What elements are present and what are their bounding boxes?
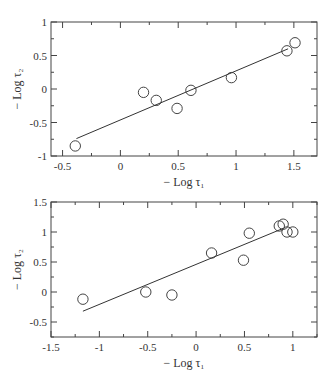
- x-tick-label: -1.5: [42, 341, 60, 353]
- data-point-circle-icon: [151, 95, 161, 105]
- data-point-circle-icon: [290, 38, 300, 48]
- y-tick-label: -0.5: [30, 316, 48, 328]
- x-tick-label: 1: [290, 341, 296, 353]
- plot-frame: [51, 22, 317, 156]
- x-tick-label: 0.5: [238, 341, 252, 353]
- x-axis-label: − Log τ₁: [163, 356, 204, 370]
- chart-bottom-plot: -1.5-1-0.500.51-0.500.511.5− Log τ₁− Log…: [0, 190, 334, 378]
- y-tick-label: -0.5: [30, 117, 48, 129]
- y-tick-label: 1: [42, 16, 48, 28]
- chart-top-plot: -0.500.511.5-1-0.500.51− Log τ₁− Log τ₂: [0, 0, 334, 190]
- data-point-circle-icon: [288, 227, 298, 237]
- data-point-circle-icon: [167, 290, 177, 300]
- y-tick-label: 0.5: [33, 50, 47, 62]
- x-tick-label: 0.5: [171, 160, 185, 172]
- fit-line: [76, 49, 288, 139]
- data-point-circle-icon: [70, 141, 80, 151]
- x-tick-label: 1.5: [287, 160, 301, 172]
- data-point-circle-icon: [138, 87, 148, 97]
- data-point-circle-icon: [172, 103, 182, 113]
- chart-top: -0.500.511.5-1-0.500.51− Log τ₁− Log τ₂: [0, 0, 334, 190]
- y-tick-label: 0.5: [33, 256, 47, 268]
- y-tick-label: -1: [38, 150, 47, 162]
- y-axis-label: − Log τ₂: [10, 68, 24, 109]
- data-point-circle-icon: [238, 255, 248, 265]
- x-axis-label: − Log τ₁: [163, 175, 204, 189]
- x-tick-label: -0.5: [139, 341, 157, 353]
- data-point-circle-icon: [141, 287, 151, 297]
- y-tick-label: 1: [42, 226, 48, 238]
- x-tick-label: -0.5: [54, 160, 72, 172]
- y-tick-label: 1.5: [33, 196, 47, 208]
- data-point-circle-icon: [78, 294, 88, 304]
- x-tick-label: 1: [233, 160, 239, 172]
- x-tick-label: 0: [118, 160, 124, 172]
- y-axis-label: − Log τ₂: [10, 249, 24, 290]
- fit-line: [83, 228, 283, 311]
- y-tick-label: 0: [42, 83, 48, 95]
- x-tick-label: -1: [95, 341, 104, 353]
- chart-bottom: -1.5-1-0.500.51-0.500.511.5− Log τ₁− Log…: [0, 190, 334, 378]
- y-tick-label: 0: [42, 286, 48, 298]
- x-tick-label: 0: [193, 341, 199, 353]
- data-point-circle-icon: [244, 228, 254, 238]
